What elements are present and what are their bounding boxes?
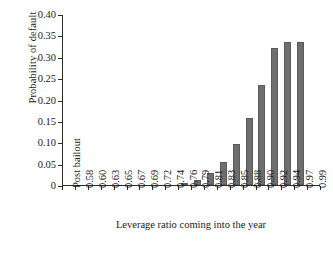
y-tick-label: 0.35 — [38, 31, 56, 42]
x-tick-label: 0.85 — [240, 170, 251, 188]
x-tick-label: 0.65 — [124, 170, 135, 188]
x-tick-label: 0.83 — [227, 170, 238, 188]
x-axis-title: Leverage ratio coming into the year — [62, 219, 320, 230]
y-tick-mark — [58, 101, 62, 102]
x-tick-label: 0.69 — [150, 170, 161, 188]
y-tick-label: 0.15 — [38, 117, 56, 128]
x-tick-label: Post bailout — [72, 138, 83, 188]
y-tick-mark — [58, 79, 62, 80]
y-tick-label: 0 — [51, 181, 56, 192]
y-tick-label: 0.40 — [38, 10, 56, 21]
x-tick-label: 0.90 — [266, 170, 277, 188]
y-axis-title: Probability of default — [27, 0, 38, 138]
x-tick-label: 0.92 — [279, 170, 290, 188]
x-tick-label: 0.63 — [111, 170, 122, 188]
x-tick-label: 0.74 — [176, 170, 187, 188]
y-tick-label: 0.30 — [38, 53, 56, 64]
y-tick-label: 0.20 — [38, 95, 56, 106]
y-tick-label: 0.25 — [38, 74, 56, 85]
x-tick-label: 0.97 — [305, 170, 316, 188]
bar — [284, 42, 291, 185]
y-tick-mark — [58, 58, 62, 59]
plot-area: 00.050.100.150.200.250.300.350.40 — [62, 15, 320, 186]
y-axis-line — [62, 15, 63, 186]
x-tick-label: 0.88 — [253, 170, 264, 188]
y-tick-mark — [58, 143, 62, 144]
x-tick-label: 0.81 — [214, 170, 225, 188]
x-tick-label: 0.94 — [292, 170, 303, 188]
bar-chart-figure: Probability of default 00.050.100.150.20… — [0, 0, 333, 258]
y-tick-mark — [58, 165, 62, 166]
x-tick-label: 0.72 — [163, 170, 174, 188]
x-tick-label: 0.76 — [189, 170, 200, 188]
y-tick-mark — [58, 122, 62, 123]
x-tick-label: 0.60 — [98, 170, 109, 188]
bar — [271, 48, 278, 185]
bar — [297, 42, 304, 185]
y-tick-label: 0.10 — [38, 138, 56, 149]
y-tick-mark — [58, 15, 62, 16]
x-tick-label: 0.99 — [318, 170, 329, 188]
y-tick-label: 0.05 — [38, 159, 56, 170]
y-tick-mark — [58, 36, 62, 37]
x-tick-label: 0.58 — [85, 170, 96, 188]
x-tick-label: 0.79 — [201, 170, 212, 188]
x-tick-label: 0.67 — [137, 170, 148, 188]
